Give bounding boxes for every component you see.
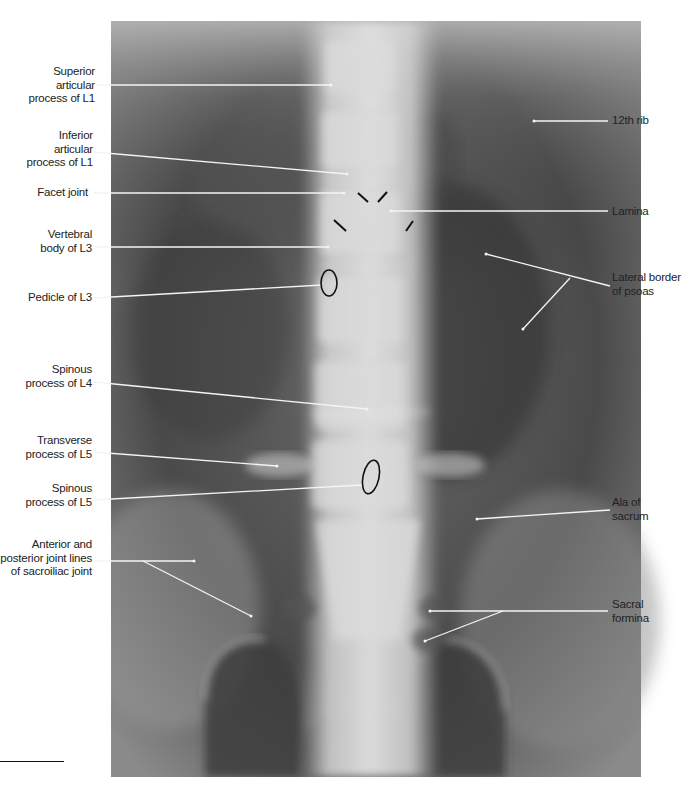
label-sacral-formina: Sacral formina bbox=[612, 598, 649, 625]
label-12th-rib: 12th rib bbox=[612, 114, 649, 128]
label-ala-of-sacrum: Ala of sacrum bbox=[612, 496, 649, 523]
label-lamina: Lamina bbox=[612, 205, 649, 219]
footer-rule bbox=[0, 761, 64, 762]
label-transverse-process-l5: Transverse process of L5 bbox=[26, 434, 92, 461]
label-superior-articular-process-l1: Superior articular process of L1 bbox=[29, 65, 95, 106]
label-pedicle-l3: Pedicle of L3 bbox=[28, 291, 92, 305]
label-inferior-articular-process-l1: Inferior articular process of L1 bbox=[27, 129, 93, 170]
label-sacroiliac-joint-lines: Anterior and posterior joint lines of sa… bbox=[0, 538, 92, 579]
label-lateral-border-psoas: Lateral border of psoas bbox=[612, 271, 681, 298]
label-spinous-process-l4: Spinous process of L4 bbox=[26, 363, 92, 390]
radiograph-figure bbox=[0, 0, 682, 796]
label-vertebral-body-l3: Vertebral body of L3 bbox=[40, 228, 92, 255]
label-facet-joint: Facet joint bbox=[37, 186, 88, 200]
label-spinous-process-l5: Spinous process of L5 bbox=[26, 482, 92, 509]
